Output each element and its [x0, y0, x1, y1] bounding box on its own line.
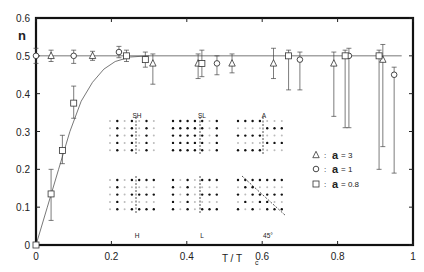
empty-site: [259, 208, 261, 210]
empty-site: [109, 179, 111, 181]
filled-site: [172, 134, 174, 136]
filled-site: [237, 134, 239, 136]
filled-site: [131, 179, 133, 181]
inset-lattices: [109, 117, 286, 216]
filled-site: [186, 134, 188, 136]
filled-site: [194, 149, 196, 151]
empty-site: [109, 149, 111, 151]
empty-site: [138, 135, 140, 137]
empty-site: [109, 208, 111, 210]
lattice-label: SL: [198, 112, 206, 119]
y-tick-label: 0: [24, 240, 30, 251]
filled-site: [201, 127, 203, 129]
empty-site: [124, 201, 126, 203]
empty-site: [209, 127, 211, 129]
legend-separator: :: [324, 151, 326, 160]
empty-site: [281, 186, 283, 188]
empty-site: [179, 194, 181, 196]
empty-site: [259, 142, 261, 144]
legend-item: [313, 151, 319, 157]
empty-site: [179, 186, 181, 188]
filled-site: [186, 208, 188, 210]
empty-site: [281, 149, 283, 151]
empty-site: [109, 201, 111, 203]
filled-site: [179, 134, 181, 136]
filled-site: [281, 127, 283, 129]
legend-symbol: a: [332, 178, 339, 190]
filled-site: [259, 193, 261, 195]
empty-site: [209, 120, 211, 122]
circle-marker: [116, 49, 122, 55]
empty-site: [153, 127, 155, 129]
filled-site: [281, 142, 283, 144]
filled-site: [251, 149, 253, 151]
filled-site: [216, 149, 218, 151]
filled-site: [116, 201, 118, 203]
filled-site: [179, 127, 181, 129]
filled-site: [208, 208, 210, 210]
filled-site: [172, 193, 174, 195]
empty-site: [109, 120, 111, 122]
filled-site: [216, 120, 218, 122]
legend-separator: :: [324, 180, 326, 189]
y-tick-label: 0.2: [16, 164, 30, 175]
y-tick-label: 0.6: [16, 13, 30, 24]
square-marker: [123, 53, 129, 59]
filled-site: [266, 201, 268, 203]
empty-site: [194, 201, 196, 203]
filled-site: [259, 149, 261, 151]
empty-site: [153, 149, 155, 151]
empty-site: [259, 127, 261, 129]
filled-site: [116, 120, 118, 122]
filled-site: [131, 142, 133, 144]
filled-site: [116, 208, 118, 210]
empty-site: [209, 149, 211, 151]
empty-site: [201, 201, 203, 203]
empty-site: [179, 179, 181, 181]
filled-site: [251, 208, 253, 210]
y-tick-label: 0.3: [16, 127, 30, 138]
filled-site: [266, 193, 268, 195]
lattice-A: [237, 117, 283, 154]
empty-site: [266, 120, 268, 122]
filled-site: [153, 193, 155, 195]
filled-site: [216, 142, 218, 144]
filled-site: [281, 208, 283, 210]
empty-site: [138, 127, 140, 129]
lattice-H: [109, 176, 155, 213]
empty-site: [138, 149, 140, 151]
empty-site: [131, 186, 133, 188]
filled-site: [208, 179, 210, 181]
filled-site: [266, 208, 268, 210]
filled-site: [201, 142, 203, 144]
lattice-label: L: [200, 232, 204, 239]
empty-site: [274, 201, 276, 203]
empty-site: [244, 142, 246, 144]
filled-site: [237, 193, 239, 195]
filled-site: [186, 193, 188, 195]
filled-site: [194, 120, 196, 122]
series-square: [33, 50, 382, 248]
lattice-label: SH: [132, 112, 141, 119]
square-marker: [342, 53, 348, 59]
filled-site: [116, 134, 118, 136]
filled-site: [251, 120, 253, 122]
empty-site: [109, 194, 111, 196]
legend-value: = 0.8: [341, 180, 360, 189]
filled-site: [116, 179, 118, 181]
filled-site: [186, 149, 188, 151]
triangle-marker: [89, 52, 95, 58]
filled-site: [131, 193, 133, 195]
empty-site: [259, 186, 261, 188]
circle-marker: [297, 57, 303, 63]
empty-site: [274, 135, 276, 137]
empty-site: [216, 201, 218, 203]
empty-site: [124, 127, 126, 129]
filled-site: [251, 179, 253, 181]
empty-site: [194, 186, 196, 188]
legend-symbol: a: [332, 149, 339, 161]
lattice-SL: [172, 117, 218, 154]
empty-site: [179, 208, 181, 210]
circle-marker: [391, 72, 397, 78]
empty-site: [146, 186, 148, 188]
